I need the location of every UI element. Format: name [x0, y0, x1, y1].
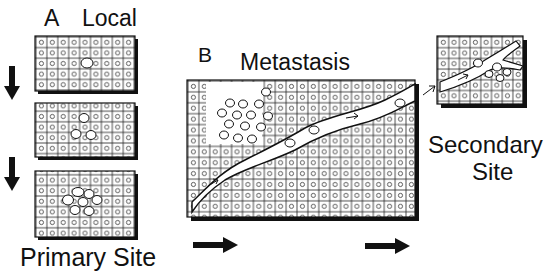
metastasis-tissue [187, 80, 419, 221]
diagram-canvas [0, 0, 548, 274]
local-stage-2-tissue [35, 103, 138, 160]
right-arrow-icon [365, 238, 410, 254]
down-arrow-icon [4, 66, 20, 100]
secondary-site-tissue [437, 36, 527, 108]
down-arrow-icon [4, 157, 20, 191]
arrow-to-secondary-icon [423, 86, 435, 95]
right-arrow-icon [193, 237, 238, 253]
local-stage-1-tissue [35, 36, 138, 94]
local-stage-3-tissue [35, 171, 138, 240]
